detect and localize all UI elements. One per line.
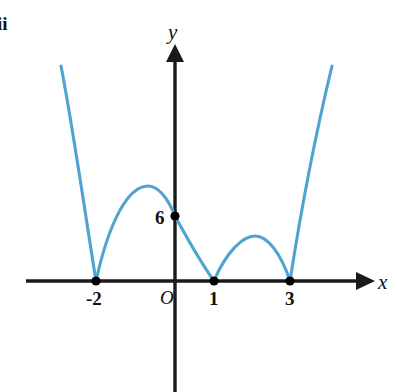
- curve-branch-right: [290, 66, 332, 281]
- graph-figure: ii y x O -2 1 3 6: [0, 0, 397, 392]
- x-axis: [26, 272, 375, 290]
- curve-branch-left: [61, 66, 96, 281]
- curve-modulus-cubic: [61, 66, 332, 281]
- y-axis-label: y: [168, 22, 177, 43]
- x-tick-label-minus-two: -2: [86, 289, 102, 308]
- point-root-three: [285, 276, 294, 285]
- point-y-intercept-six: [170, 211, 179, 220]
- part-label: ii: [0, 14, 8, 33]
- curve-hump-second: [214, 236, 290, 281]
- x-tick-label-one: 1: [209, 289, 219, 308]
- y-tick-label-six: 6: [155, 208, 165, 227]
- curve-segment-to-root-one: [175, 216, 214, 281]
- x-tick-label-three: 3: [285, 289, 295, 308]
- point-root-minus-two: [91, 276, 100, 285]
- y-axis-arrowhead: [166, 44, 184, 62]
- origin-label: O: [160, 288, 174, 307]
- x-axis-arrowhead: [356, 272, 375, 290]
- point-root-one: [209, 276, 218, 285]
- x-axis-label: x: [378, 272, 387, 293]
- graph-canvas: [0, 0, 397, 392]
- curve-hump-first: [96, 186, 175, 281]
